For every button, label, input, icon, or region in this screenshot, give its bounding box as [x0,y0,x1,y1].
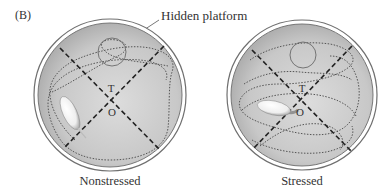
target-quadrant-label: T [108,82,115,94]
opposite-quadrant-label: O [108,106,116,118]
caption-nonstressed: Nonstressed [40,174,180,189]
opposite-quadrant-label: O [296,106,304,118]
target-quadrant-label: T [299,82,306,94]
caption-stressed: Stressed [232,174,372,189]
quadrant-labels: T O T O [0,0,386,196]
